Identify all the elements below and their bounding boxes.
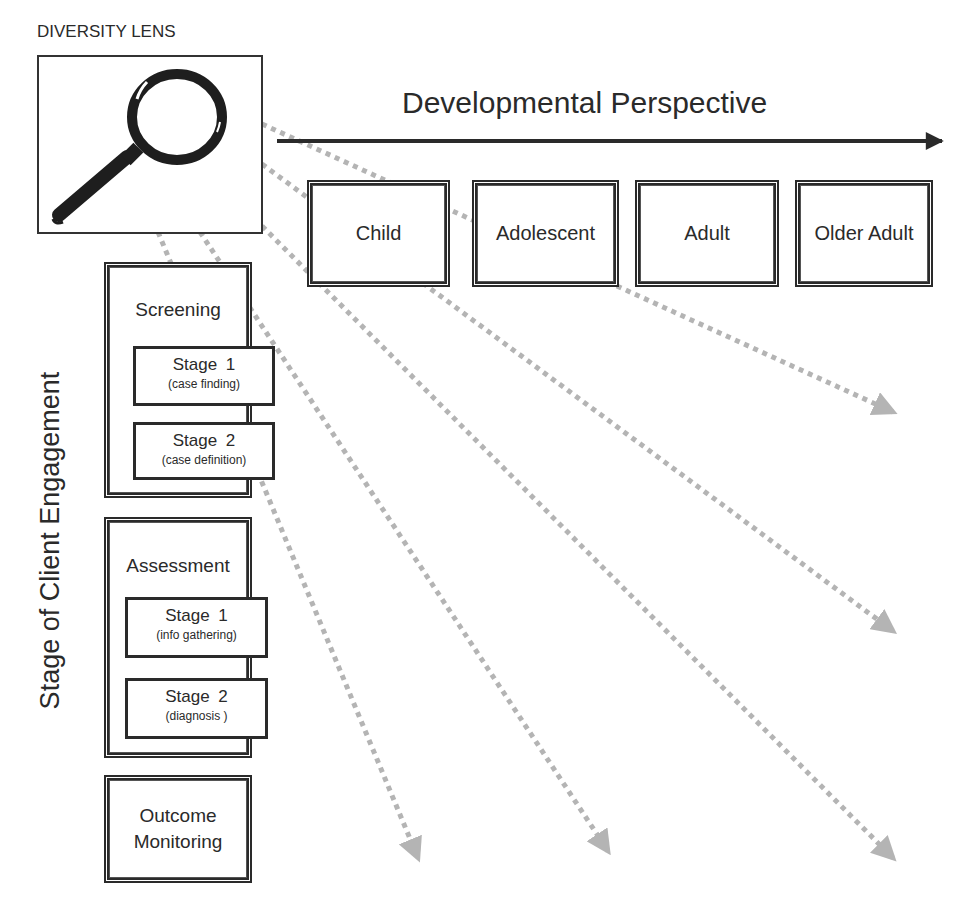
stage-subtitle: (info gathering) [128,628,265,642]
assessment-stage-1-box: Stage 1 (info gathering) [125,597,268,658]
dotted-arrow-4 [200,232,608,851]
outcome-monitoring-box: Outcome Monitoring [104,775,252,883]
age-box-child: Child [307,180,450,287]
double-border [109,780,247,878]
screening-stage-2-box: Stage 2 (case definition) [133,422,275,480]
client-engagement-axis-label: Stage of Client Engagement [35,301,66,781]
stage-title: Stage 2 [128,687,265,707]
double-border [477,185,614,282]
age-box-adult: Adult [635,180,779,287]
developmental-perspective-title: Developmental Perspective [402,86,767,120]
stage-title: Stage 2 [136,431,272,451]
diversity-lens-title: DIVERSITY LENS [37,22,237,42]
stage-title: Stage 1 [136,355,272,375]
assessment-stage-2-box: Stage 2 (diagnosis ) [125,678,268,739]
double-border [800,185,928,282]
double-border [312,185,445,282]
diversity-lens-box [37,55,263,234]
dotted-arrow-3 [262,226,893,858]
stage-subtitle: (case finding) [136,377,272,391]
stage-subtitle: (case definition) [136,453,272,467]
magnifying-glass-icon [39,57,261,232]
stage-title: Stage 1 [128,606,265,626]
age-box-older-adult: Older Adult [795,180,933,287]
double-border [640,185,774,282]
screening-label: Screening [109,299,247,321]
age-box-adolescent: Adolescent [472,180,619,287]
stage-subtitle: (diagnosis ) [128,709,265,723]
screening-stage-1-box: Stage 1 (case finding) [133,346,275,406]
assessment-label: Assessment [109,555,247,577]
